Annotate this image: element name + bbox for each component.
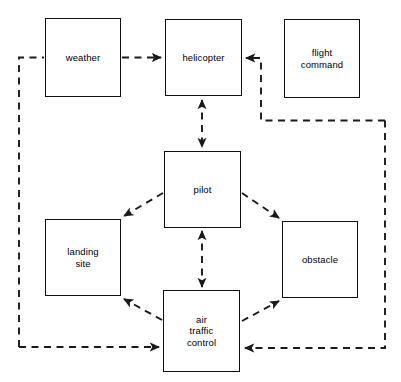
node-flight-command[interactable]: flight command: [284, 19, 360, 98]
node-pilot[interactable]: pilot: [164, 151, 241, 228]
edge-pilot-to-landing-site: [124, 193, 163, 216]
edge-pilot-to-obstacle: [242, 193, 279, 218]
node-air-traffic-control-label: air traffic control: [187, 314, 216, 349]
node-weather[interactable]: weather: [45, 18, 121, 97]
edge-atc-to-weather: [19, 58, 44, 348]
node-obstacle[interactable]: obstacle: [282, 221, 358, 298]
node-helicopter[interactable]: helicopter: [165, 19, 242, 96]
edge-atc-to-landing-site: [124, 299, 162, 320]
edge-atc-to-obstacle: [242, 301, 279, 321]
node-obstacle-label: obstacle: [302, 254, 338, 266]
node-helicopter-label: helicopter: [182, 52, 224, 64]
node-weather-label: weather: [66, 52, 101, 64]
node-landing-site-label: landing site: [67, 246, 98, 269]
node-pilot-label: pilot: [194, 184, 212, 196]
node-flight-command-label: flight command: [301, 47, 343, 70]
node-landing-site[interactable]: landing site: [45, 219, 121, 296]
node-air-traffic-control[interactable]: air traffic control: [163, 290, 240, 372]
diagram-canvas: weather helicopter flight command pilot …: [0, 0, 401, 382]
